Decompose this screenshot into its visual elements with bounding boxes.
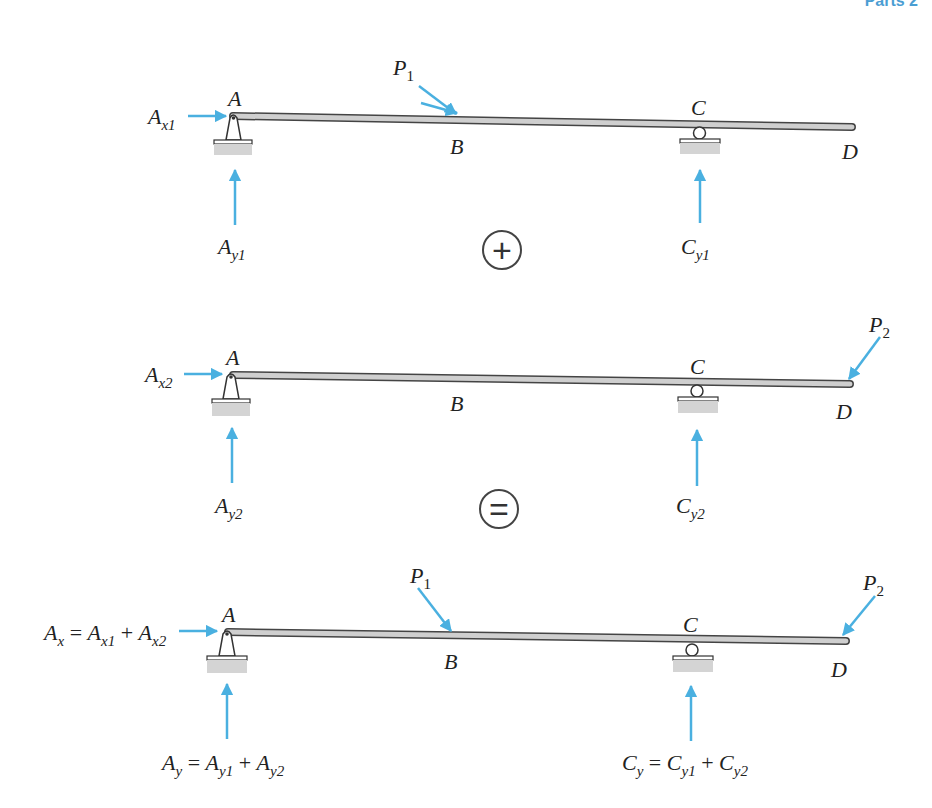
label-point-d: D (831, 659, 847, 681)
label-point-d: D (842, 141, 858, 163)
roller-support-icon (673, 644, 713, 672)
label-point-b: B (444, 651, 457, 673)
plus-operator-icon: + (482, 230, 522, 270)
diagram-3 (179, 588, 875, 741)
label-ax2: Ax2 (145, 364, 173, 391)
label-point-a: A (228, 88, 241, 110)
roller-support-icon (678, 385, 718, 413)
pin-support-icon (212, 374, 250, 416)
force-arrow-p1 (418, 588, 451, 631)
force-arrow-p2 (849, 337, 880, 379)
pin-support-icon (207, 631, 247, 673)
label-ax-equation: Ax = Ax1 + Ax2 (44, 622, 166, 649)
label-p2: P2 (869, 314, 890, 341)
diagram-2 (184, 337, 880, 486)
force-arrow-p2 (843, 596, 875, 635)
diagram-1 (188, 86, 852, 225)
label-point-b: B (450, 136, 463, 158)
label-ax1: Ax1 (148, 106, 176, 133)
label-cy1: Cy1 (681, 236, 710, 263)
roller-support-icon (680, 127, 720, 154)
label-cy-equation: Cy = Cy1 + Cy2 (622, 752, 748, 779)
label-point-a: A (226, 347, 239, 369)
label-point-c: C (690, 356, 705, 378)
label-point-b: B (450, 393, 463, 415)
label-ay-equation: Ay = Ay1 + Ay2 (162, 752, 284, 779)
label-cy2: Cy2 (676, 495, 705, 522)
label-ay2: Ay2 (215, 495, 243, 522)
label-ay1: Ay1 (218, 236, 246, 263)
beam-diagrams-canvas (0, 0, 932, 808)
label-p1: P1 (393, 57, 414, 84)
label-point-a: A (222, 604, 235, 626)
label-point-c: C (691, 97, 706, 119)
equals-operator-icon: = (479, 489, 519, 529)
pin-support-icon (214, 115, 252, 155)
label-p2: P2 (863, 572, 884, 599)
label-p1: P1 (410, 565, 431, 592)
label-point-c: C (683, 614, 698, 636)
label-point-d: D (836, 401, 852, 423)
